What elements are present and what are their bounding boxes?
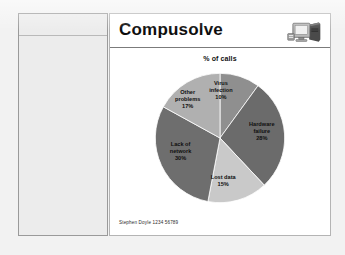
chart-area[interactable]: % of calls Virus infection 10% Hardware … [110,48,330,219]
desktop-computer-icon [286,21,322,44]
pie-chart[interactable]: Virus infection 10% Hardware failure 28%… [154,72,286,204]
slide-footer-note: Stephen Doyle 1234 56789 [119,220,178,225]
left-panel-divider [19,35,107,36]
pie-slices [155,73,284,202]
slide-editor-canvas: Compusolve [0,0,345,255]
slide-title-band: Compusolve [110,14,330,48]
page-title: Compusolve [119,20,223,40]
chart-title: % of calls [110,55,330,62]
slide[interactable]: Compusolve [109,13,331,236]
left-outline-panel[interactable] [18,13,108,236]
